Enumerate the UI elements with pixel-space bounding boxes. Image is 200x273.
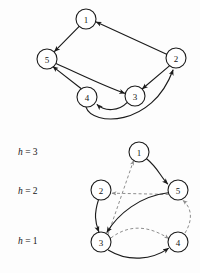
node-4[interactable]: 4 (77, 87, 97, 107)
node-b-5-label: 5 (176, 186, 181, 196)
level-label-h3: h = 3 (18, 147, 38, 157)
node-b-1-label: 1 (137, 148, 142, 158)
figure-container: 1 2 3 4 5 (0, 0, 200, 273)
level-label-h1: h = 1 (18, 236, 38, 246)
node-4-label: 4 (85, 93, 90, 103)
node-1-label: 1 (84, 15, 89, 25)
node-3-label: 3 (133, 92, 138, 102)
level-label-h2-rest: = 2 (23, 186, 38, 196)
node-b-2-label: 2 (99, 186, 104, 196)
node-b-2[interactable]: 2 (91, 180, 111, 200)
node-b-3-label: 3 (99, 238, 104, 248)
node-b-3[interactable]: 3 (91, 232, 111, 252)
node-b-1[interactable]: 1 (129, 142, 149, 162)
level-label-h1-rest: = 1 (23, 236, 38, 246)
node-5-label: 5 (45, 55, 50, 65)
node-2[interactable]: 2 (166, 48, 186, 68)
level-label-h3-rest: = 3 (23, 147, 38, 157)
node-b-4[interactable]: 4 (168, 232, 188, 252)
node-b-4-label: 4 (176, 238, 181, 248)
graph-figure: 1 2 3 4 5 (0, 0, 200, 273)
node-5[interactable]: 5 (37, 49, 57, 69)
node-1[interactable]: 1 (76, 9, 96, 29)
level-label-h2: h = 2 (18, 186, 38, 196)
node-3[interactable]: 3 (125, 86, 145, 106)
node-b-5[interactable]: 5 (168, 180, 188, 200)
node-2-label: 2 (174, 54, 179, 64)
